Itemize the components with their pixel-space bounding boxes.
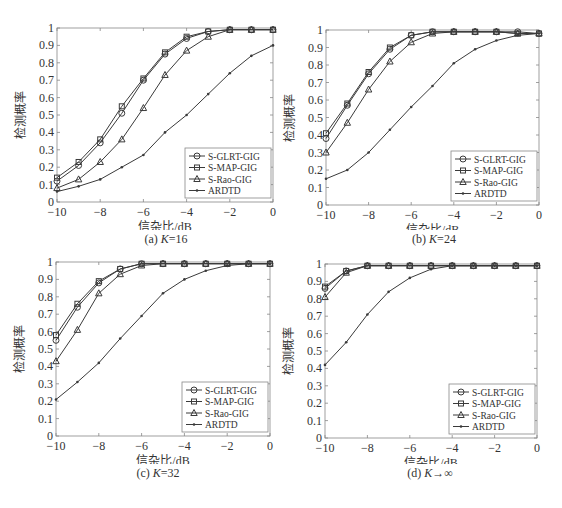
x-tick-label: −8 — [94, 205, 107, 219]
series-s-map-gig — [324, 29, 542, 136]
series-point-marker — [99, 178, 102, 181]
y-tick-label: 0.7 — [307, 309, 322, 323]
legend-entry: S-Rao-GIG — [474, 178, 518, 188]
legend-entry: ARDTD — [472, 422, 505, 432]
y-tick-label: 0.2 — [308, 163, 323, 177]
series-line — [326, 32, 539, 153]
x-tick-label: −6 — [137, 205, 150, 219]
caption-suffix: =24 — [437, 232, 456, 246]
caption-k: K — [429, 232, 437, 246]
series-point-marker — [229, 72, 232, 75]
y-tick-label: 0.4 — [308, 128, 323, 142]
x-tick-label: −2 — [223, 205, 236, 219]
caption-suffix: →∞ — [432, 466, 453, 480]
y-axis-label: 检测概率 — [282, 94, 297, 142]
y-tick-label: 0.3 — [38, 377, 53, 391]
y-axis-label: 检测概率 — [13, 91, 28, 139]
caption-prefix: (c) — [136, 466, 152, 480]
series-point-marker — [250, 55, 253, 58]
series-ardtd — [55, 262, 272, 400]
legend-entry: S-MAP-GIG — [474, 166, 523, 176]
legend-entry: ARDTD — [474, 189, 507, 199]
series-line — [56, 264, 270, 335]
y-axis-label: 检测概率 — [281, 327, 296, 375]
caption-prefix: (b) — [412, 232, 429, 246]
y-tick-label: 0.8 — [38, 290, 53, 304]
y-tick-label: 0.9 — [308, 41, 323, 55]
x-tick-label: −8 — [362, 208, 375, 222]
series-point-marker — [269, 262, 272, 265]
legend-entry: S-MAP-GIG — [208, 163, 257, 173]
y-tick-label: 0.8 — [307, 292, 322, 306]
legend: S-GLRT-GIGS-MAP-GIGS-Rao-GIGARDTD — [182, 382, 268, 432]
series-point-marker — [247, 262, 250, 265]
series-point-marker — [430, 268, 433, 271]
x-tick-label: −2 — [488, 441, 501, 455]
line-chart-d: 00.10.20.30.40.50.60.70.80.91−10−8−6−4−2… — [281, 254, 562, 464]
x-tick-label: −6 — [403, 441, 416, 455]
legend-entry: S-GLRT-GIG — [472, 388, 524, 398]
series-point-marker — [538, 32, 541, 35]
y-tick-label: 0.4 — [38, 359, 53, 373]
caption-suffix: =32 — [161, 466, 180, 480]
y-tick-label: 0.5 — [307, 344, 322, 358]
y-tick-label: 0.2 — [307, 396, 322, 410]
y-tick-label: 0.8 — [308, 58, 323, 72]
legend-entry: ARDTD — [208, 186, 241, 196]
chart-panel-d: 00.10.20.30.40.50.60.70.80.91−10−8−6−4−2… — [281, 254, 562, 468]
y-tick-label: 0.2 — [38, 394, 53, 408]
series-point-marker — [162, 292, 165, 295]
x-tick-label: −2 — [490, 208, 503, 222]
y-tick-label: 1 — [47, 255, 53, 269]
y-tick-label: 0.3 — [39, 143, 54, 157]
series-point-marker — [98, 362, 101, 365]
y-tick-label: 0.9 — [38, 272, 53, 286]
y-axis-label: 检测概率 — [12, 325, 27, 373]
series-point-marker — [366, 313, 369, 316]
x-tick-label: −4 — [178, 439, 191, 453]
series-point-marker — [142, 154, 145, 157]
legend-marker — [460, 425, 463, 428]
legend: S-GLRT-GIGS-MAP-GIGS-Rao-GIGARDTD — [449, 384, 535, 434]
series-point-marker — [387, 291, 390, 294]
x-tick-label: −4 — [446, 441, 459, 455]
legend-marker — [462, 192, 465, 195]
series-point-marker — [324, 364, 327, 367]
legend-entry: S-GLRT-GIG — [205, 386, 257, 396]
x-tick-label: 0 — [267, 439, 273, 453]
x-axis-label: 信杂比/dB — [406, 223, 459, 230]
legend-entry: S-Rao-GIG — [472, 411, 516, 421]
x-tick-label: −10 — [317, 208, 336, 222]
series-s-rao-gig — [53, 260, 273, 363]
series-point-marker — [345, 341, 348, 344]
series-point-marker — [55, 398, 58, 401]
legend-entry: S-MAP-GIG — [472, 399, 521, 409]
y-tick-label: 0.1 — [38, 412, 53, 426]
caption-k: K — [161, 232, 169, 246]
x-tick-label: −4 — [447, 208, 460, 222]
y-tick-label: 0.4 — [307, 361, 322, 375]
x-tick-label: −6 — [135, 439, 148, 453]
caption-c: (c) K=32 — [58, 466, 258, 481]
x-tick-label: −2 — [221, 439, 234, 453]
legend: S-GLRT-GIGS-MAP-GIGS-Rao-GIGARDTD — [451, 151, 537, 201]
series-point-marker — [389, 128, 392, 131]
legend-entry: S-GLRT-GIG — [208, 152, 260, 162]
series-point-marker — [77, 185, 80, 188]
y-tick-label: 0.1 — [307, 414, 322, 428]
x-tick-label: −10 — [316, 441, 335, 455]
series-line — [326, 32, 539, 134]
y-tick-label: 1 — [316, 257, 322, 271]
x-tick-label: 0 — [270, 205, 276, 219]
y-tick-label: 0.5 — [308, 111, 323, 125]
legend-marker — [196, 189, 199, 192]
line-chart-b: 00.10.20.30.40.50.60.70.80.91−10−8−6−4−2… — [281, 0, 562, 230]
series-point-marker — [451, 264, 454, 267]
series-s-map-gig — [323, 263, 540, 289]
y-tick-label: 0.1 — [39, 178, 54, 192]
series-line — [56, 264, 270, 362]
caption-prefix: (d) — [407, 466, 424, 480]
x-axis-label: 信杂比/dB — [404, 456, 457, 464]
series-point-marker — [119, 337, 122, 340]
x-tick-label: −10 — [47, 439, 66, 453]
